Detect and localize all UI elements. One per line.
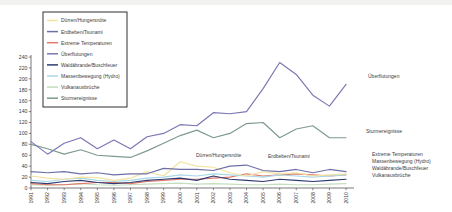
y-tick-label: 160 — [19, 98, 28, 104]
y-tick-label: 100 — [19, 130, 28, 136]
x-tick-label: 2006 — [276, 192, 282, 204]
annotation-vulkanausbr-che: Vulkanausbrüche — [372, 172, 411, 178]
y-tick-label: 240 — [19, 54, 28, 60]
y-tick-label: 0 — [25, 185, 28, 191]
x-tick-label: 2003 — [227, 192, 233, 204]
x-tick-label: 2010 — [343, 192, 349, 204]
chart-figure: 0204060801001201401601802002202401991199… — [0, 0, 452, 212]
y-tick-label: 220 — [19, 65, 28, 71]
series-line-d-rren-hungersn-te — [31, 162, 346, 181]
x-tick-label: 2001 — [194, 192, 200, 204]
x-tick-label: 1996 — [111, 192, 117, 204]
line-chart-svg: 0204060801001201401601802002202401991199… — [0, 0, 452, 212]
x-tick-label: 2002 — [210, 192, 216, 204]
annotation-wald-brande-buschfeuer: Waldäbrande/Buschfeuer — [372, 165, 429, 171]
x-tick-label: 2009 — [326, 192, 332, 204]
annotation-extreme-temperaturen: Extreme Temperaturen — [372, 151, 423, 157]
legend-label-2: Extreme Temperaturen — [61, 40, 112, 46]
x-tick-label: 2008 — [310, 192, 316, 204]
y-tick-label: 80 — [22, 141, 28, 147]
x-tick-label: 1994 — [78, 192, 84, 204]
y-tick-label: 60 — [22, 152, 28, 158]
annotation-berflutungen: Überflutungen — [368, 73, 400, 79]
x-tick-label: 1991 — [28, 192, 34, 204]
x-tick-label: 2000 — [177, 192, 183, 204]
legend-box — [43, 12, 127, 107]
x-tick-label: 2007 — [293, 192, 299, 204]
x-tick-label: 2005 — [260, 192, 266, 204]
annotation-sturmereignisse: Sturmereignisse — [366, 128, 402, 134]
y-tick-label: 140 — [19, 108, 28, 114]
x-tick-label: 1999 — [160, 192, 166, 204]
legend-label-7: Sturmereignisse — [61, 95, 97, 101]
x-tick-label: 1995 — [94, 192, 100, 204]
y-tick-label: 200 — [19, 76, 28, 82]
x-tick-label: 2004 — [243, 192, 249, 204]
legend-label-6: Vulkanausbrüche — [61, 84, 100, 90]
y-tick-label: 180 — [19, 87, 28, 93]
y-tick-label: 120 — [19, 119, 28, 125]
legend-label-0: Dürren/Hungersnöte — [61, 17, 107, 23]
y-tick-label: 40 — [22, 163, 28, 169]
legend-label-3: Überflutungen — [61, 51, 93, 57]
x-tick-label: 1992 — [44, 192, 50, 204]
annotation-d-rren-hungersn-te: Dürren/Hungersnöte — [196, 152, 242, 158]
legend-label-5: Massenbewegung (Hydro) — [61, 73, 120, 79]
x-tick-label: 1993 — [61, 192, 67, 204]
x-tick-label: 1997 — [127, 192, 133, 204]
legend-label-4: Waldäbrande/Buschfeuer — [61, 62, 118, 68]
legend-label-1: Erdbeben/Tsunami — [61, 29, 103, 35]
y-tick-label: 20 — [22, 174, 28, 180]
annotation-massenbewegung-hydro: Massenbewegung (Hydro) — [372, 158, 431, 164]
annotation-erdbeben-tsunami: Erdbeben/Tsunami — [268, 153, 310, 159]
x-tick-label: 1998 — [144, 192, 150, 204]
